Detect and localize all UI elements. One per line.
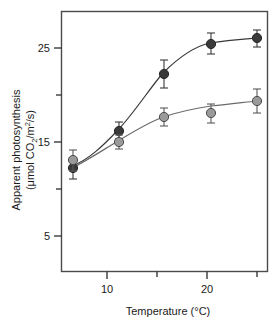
data-point-dark-2 [114, 126, 123, 135]
figure-container: 25 15 5 10 20 Temperature (°C) Apparent … [0, 0, 279, 326]
y-axis-title-mid: /m [24, 126, 36, 138]
data-point-light-2 [114, 137, 123, 146]
y-axis-ticks [54, 48, 62, 236]
data-point-dark-5 [252, 33, 261, 42]
photosynthesis-temperature-chart: 25 15 5 10 20 Temperature (°C) Apparent … [0, 0, 279, 326]
y-axis-title-line1: Apparent photosynthesis [10, 89, 22, 211]
error-bars-dark [69, 30, 261, 179]
data-point-dark-3 [159, 69, 168, 78]
data-point-light-1 [68, 155, 77, 164]
plot-frame [62, 12, 268, 272]
series-dark-filled-circles [68, 30, 261, 179]
data-point-light-3 [159, 112, 168, 121]
y-axis-title-pre: (μmol CO [24, 142, 36, 190]
x-tick-label-10: 10 [101, 283, 113, 295]
y-tick-label-25: 25 [38, 42, 50, 54]
data-point-light-4 [206, 108, 215, 117]
x-tick-label-20: 20 [201, 283, 213, 295]
x-axis-ticks [107, 272, 257, 280]
y-tick-label-15: 15 [38, 136, 50, 148]
y-axis-title-post: /s) [24, 110, 36, 122]
fit-curve-dark-series [72, 38, 257, 166]
x-axis-title-close: ) [207, 305, 211, 317]
error-bars-light [69, 89, 261, 171]
y-axis-title: Apparent photosynthesis (μmol CO2/m2/s) [10, 89, 39, 211]
x-axis-title-unit: °C [194, 305, 206, 317]
x-axis-title: Temperature (°C) [126, 305, 211, 317]
y-axis-title-line2: (μmol CO2/m2/s) [23, 110, 39, 190]
y-tick-label-5: 5 [44, 230, 50, 242]
markers-dark [68, 33, 261, 172]
markers-light [68, 96, 261, 164]
data-point-dark-4 [206, 39, 215, 48]
data-point-light-5 [252, 96, 261, 105]
x-axis-title-main: Temperature ( [126, 305, 195, 317]
series-light-gray-circles [68, 89, 261, 171]
